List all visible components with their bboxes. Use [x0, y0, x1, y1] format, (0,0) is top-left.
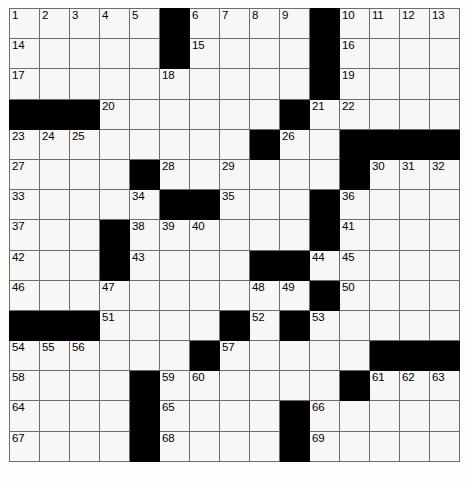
crossword-cell[interactable]: 11: [370, 9, 400, 39]
crossword-cell[interactable]: [40, 159, 70, 189]
crossword-cell[interactable]: [340, 310, 370, 340]
crossword-cell[interactable]: [400, 220, 430, 250]
crossword-cell[interactable]: [130, 310, 160, 340]
crossword-cell[interactable]: [370, 431, 400, 461]
crossword-cell[interactable]: [40, 280, 70, 310]
crossword-cell[interactable]: 27: [10, 159, 40, 189]
crossword-cell[interactable]: 36: [340, 190, 370, 220]
crossword-cell[interactable]: [220, 280, 250, 310]
crossword-cell[interactable]: [370, 280, 400, 310]
crossword-cell[interactable]: [70, 159, 100, 189]
crossword-cell[interactable]: [100, 39, 130, 69]
crossword-cell[interactable]: [70, 431, 100, 461]
crossword-cell[interactable]: 52: [250, 310, 280, 340]
crossword-cell[interactable]: 59: [160, 371, 190, 401]
crossword-cell[interactable]: 34: [130, 190, 160, 220]
crossword-cell[interactable]: 67: [10, 431, 40, 461]
crossword-cell[interactable]: [250, 159, 280, 189]
crossword-cell[interactable]: 58: [10, 371, 40, 401]
crossword-cell[interactable]: [190, 310, 220, 340]
crossword-cell[interactable]: [430, 190, 460, 220]
crossword-cell[interactable]: 30: [370, 159, 400, 189]
crossword-cell[interactable]: 38: [130, 220, 160, 250]
crossword-cell[interactable]: [160, 129, 190, 159]
crossword-cell[interactable]: 28: [160, 159, 190, 189]
crossword-cell[interactable]: [400, 250, 430, 280]
crossword-cell[interactable]: [430, 431, 460, 461]
crossword-cell[interactable]: 22: [340, 99, 370, 129]
crossword-cell[interactable]: [220, 129, 250, 159]
crossword-cell[interactable]: 47: [100, 280, 130, 310]
crossword-cell[interactable]: [370, 401, 400, 431]
crossword-cell[interactable]: [100, 69, 130, 99]
crossword-cell[interactable]: 61: [370, 371, 400, 401]
crossword-cell[interactable]: 3: [70, 9, 100, 39]
crossword-cell[interactable]: [370, 99, 400, 129]
crossword-cell[interactable]: [370, 250, 400, 280]
crossword-cell[interactable]: 1: [10, 9, 40, 39]
crossword-cell[interactable]: [400, 401, 430, 431]
crossword-cell[interactable]: [190, 69, 220, 99]
crossword-cell[interactable]: [220, 99, 250, 129]
crossword-cell[interactable]: [370, 69, 400, 99]
crossword-cell[interactable]: [250, 220, 280, 250]
crossword-cell[interactable]: [100, 431, 130, 461]
crossword-cell[interactable]: 2: [40, 9, 70, 39]
crossword-cell[interactable]: 18: [160, 69, 190, 99]
crossword-cell[interactable]: [40, 371, 70, 401]
crossword-cell[interactable]: 54: [10, 341, 40, 371]
crossword-cell[interactable]: [250, 401, 280, 431]
crossword-cell[interactable]: [250, 99, 280, 129]
crossword-cell[interactable]: [70, 190, 100, 220]
crossword-cell[interactable]: [40, 69, 70, 99]
crossword-cell[interactable]: [310, 341, 340, 371]
crossword-cell[interactable]: [220, 220, 250, 250]
crossword-cell[interactable]: 64: [10, 401, 40, 431]
crossword-cell[interactable]: 13: [430, 9, 460, 39]
crossword-cell[interactable]: [340, 401, 370, 431]
crossword-cell[interactable]: [160, 341, 190, 371]
crossword-cell[interactable]: [370, 39, 400, 69]
crossword-cell[interactable]: [310, 129, 340, 159]
crossword-cell[interactable]: [130, 129, 160, 159]
crossword-cell[interactable]: 51: [100, 310, 130, 340]
crossword-cell[interactable]: [400, 190, 430, 220]
crossword-cell[interactable]: 62: [400, 371, 430, 401]
crossword-cell[interactable]: [400, 431, 430, 461]
crossword-cell[interactable]: 41: [340, 220, 370, 250]
crossword-cell[interactable]: [220, 39, 250, 69]
crossword-cell[interactable]: [70, 220, 100, 250]
crossword-cell[interactable]: [190, 159, 220, 189]
crossword-cell[interactable]: [430, 39, 460, 69]
crossword-cell[interactable]: 63: [430, 371, 460, 401]
crossword-grid[interactable]: 1234567891011121314151617181920212223242…: [9, 8, 460, 462]
crossword-cell[interactable]: [400, 39, 430, 69]
crossword-cell[interactable]: [40, 220, 70, 250]
crossword-cell[interactable]: [100, 129, 130, 159]
crossword-cell[interactable]: 4: [100, 9, 130, 39]
crossword-cell[interactable]: [190, 250, 220, 280]
crossword-cell[interactable]: [370, 190, 400, 220]
crossword-cell[interactable]: 31: [400, 159, 430, 189]
crossword-cell[interactable]: [190, 401, 220, 431]
crossword-cell[interactable]: [130, 280, 160, 310]
crossword-cell[interactable]: [280, 39, 310, 69]
crossword-cell[interactable]: [190, 280, 220, 310]
crossword-cell[interactable]: 19: [340, 69, 370, 99]
crossword-cell[interactable]: [190, 431, 220, 461]
crossword-cell[interactable]: 16: [340, 39, 370, 69]
crossword-cell[interactable]: 6: [190, 9, 220, 39]
crossword-cell[interactable]: [250, 431, 280, 461]
crossword-cell[interactable]: 9: [280, 9, 310, 39]
crossword-cell[interactable]: [340, 431, 370, 461]
crossword-cell[interactable]: [250, 190, 280, 220]
crossword-cell[interactable]: [430, 69, 460, 99]
crossword-cell[interactable]: [160, 99, 190, 129]
crossword-cell[interactable]: 43: [130, 250, 160, 280]
crossword-cell[interactable]: [370, 220, 400, 250]
crossword-cell[interactable]: [430, 250, 460, 280]
crossword-cell[interactable]: [340, 341, 370, 371]
crossword-cell[interactable]: 32: [430, 159, 460, 189]
crossword-cell[interactable]: [100, 341, 130, 371]
crossword-cell[interactable]: 66: [310, 401, 340, 431]
